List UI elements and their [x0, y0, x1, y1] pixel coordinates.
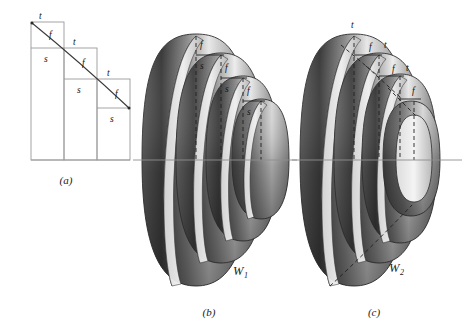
panel-a-label-f-1: f	[49, 30, 53, 40]
figure-root: t f s t f s t f s (a)	[0, 0, 470, 328]
panel-a-label-t-2: t	[73, 37, 76, 47]
panel-a-label-f-2: f	[82, 58, 86, 68]
panel-c-surface-label: W 2	[389, 261, 404, 277]
panel-b-ring-1	[232, 99, 289, 219]
panel-a-label-t-3: t	[107, 68, 110, 78]
panel-b-W-subscript: 1	[244, 271, 248, 280]
panel-a: t f s t f s t f s (a)	[31, 11, 131, 187]
ring-1-shade	[232, 99, 289, 219]
panel-c-label-t-2: t	[384, 40, 387, 50]
panel-b-label-s-1: s	[200, 61, 204, 71]
panel-c-label-t-1: t	[351, 20, 354, 30]
panel-a-label-s-2: s	[77, 85, 81, 95]
panel-b-label-s-2: s	[225, 84, 229, 94]
panel-a-label-t-1: t	[39, 11, 42, 21]
panel-c-W-subscript: 2	[400, 268, 404, 277]
panel-c-label-t-3: t	[406, 63, 409, 73]
panel-b-label-s-3: s	[247, 107, 251, 117]
panel-b-caption: (b)	[203, 306, 216, 319]
stair-diagonal-start-dot	[31, 22, 34, 25]
stair-column-1	[31, 22, 64, 160]
stair-diagonal-end-dot	[128, 107, 131, 110]
figure-svg: t f s t f s t f s (a)	[0, 0, 470, 328]
panel-b-surface-label: W 1	[233, 264, 248, 280]
panel-a-label-s-3: s	[110, 114, 114, 124]
panel-b: f s f s f s W 1 (b)	[133, 34, 297, 319]
panel-c-caption: (c)	[368, 306, 381, 319]
stair-column-2	[64, 48, 97, 160]
panel-a-caption: (a)	[60, 174, 73, 187]
panel-c: t f t f t f W 2 (c)	[292, 20, 462, 319]
panel-c-ring-1	[383, 101, 440, 216]
panel-a-label-s-1: s	[44, 54, 48, 64]
